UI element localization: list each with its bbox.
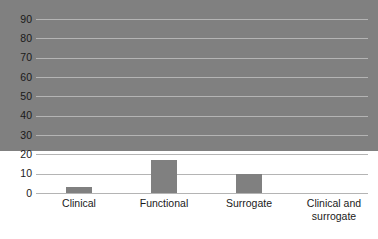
y-tick-30: 30 [0, 130, 32, 141]
bar-functional [151, 160, 177, 193]
y-tick-20: 20 [0, 149, 32, 160]
bar-clinical [66, 187, 92, 193]
y-tick-70: 70 [0, 52, 32, 63]
y-tick-90: 90 [0, 14, 32, 25]
y-tick-0: 0 [0, 188, 32, 199]
gridline-baseline-0 [36, 193, 368, 194]
x-label-clinical-and-surrogate: Clinical and surrogate [294, 197, 374, 223]
bar-surrogate [236, 174, 262, 193]
bars-layer [36, 19, 368, 193]
bar-chart: 90 80 70 60 50 40 30 20 10 0 Clinical Fu… [0, 0, 378, 151]
y-tick-50: 50 [0, 91, 32, 102]
x-label-line2: surrogate [312, 210, 356, 222]
x-label-surrogate: Surrogate [209, 197, 289, 210]
y-tick-80: 80 [0, 33, 32, 44]
y-axis-tick-labels: 90 80 70 60 50 40 30 20 10 0 [0, 0, 32, 239]
y-tick-60: 60 [0, 72, 32, 83]
y-tick-10: 10 [0, 168, 32, 179]
x-label-clinical: Clinical [39, 197, 119, 210]
x-axis-category-labels: Clinical Functional Surrogate Clinical a… [36, 197, 368, 237]
x-label-line1: Clinical and [307, 197, 361, 209]
y-tick-40: 40 [0, 110, 32, 121]
x-label-functional: Functional [124, 197, 204, 210]
